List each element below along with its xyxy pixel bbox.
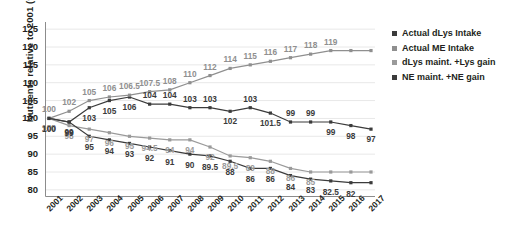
legend-item-1[interactable]: Actual ME Intake <box>392 43 512 54</box>
legend-label: NE maint. +NE gain <box>402 73 485 82</box>
legend-label: Actual dLys Intake <box>402 29 481 38</box>
legend-label: Actual ME Intake <box>402 44 474 53</box>
data-label: 114 <box>223 55 236 63</box>
legend-item-3[interactable]: NE maint. +NE gain <box>392 72 512 83</box>
data-label: 94 <box>185 146 194 154</box>
data-label: 99 <box>65 129 74 137</box>
data-label: 103 <box>203 95 217 103</box>
data-label: 93 <box>125 150 134 158</box>
data-label: 83 <box>306 186 315 194</box>
data-label: 94.5 <box>142 144 158 152</box>
data-labels: 10099103105106104104103103102103101.5999… <box>45 22 375 197</box>
data-label: 103 <box>82 114 96 122</box>
data-label: 95 <box>85 143 94 151</box>
line-chart: Nutrients relative to 2001 (%) 808590951… <box>0 0 515 242</box>
data-label: 97 <box>366 135 375 143</box>
data-label: 89.5 <box>202 163 218 171</box>
y-tick-label: 115 <box>12 60 38 70</box>
data-label: 94 <box>165 146 174 154</box>
data-label: 94 <box>105 147 114 155</box>
data-label: 112 <box>203 62 216 70</box>
data-label: 110 <box>183 70 196 78</box>
legend-label: dLys maint. +Lys gain <box>402 58 496 67</box>
data-label: 117 <box>284 45 297 53</box>
data-label: 86 <box>246 175 255 183</box>
y-tick-label: 120 <box>12 42 38 52</box>
data-label: 106 <box>102 84 116 92</box>
x-axis-ticks: 2001200220032004200520062007200820092010… <box>45 201 385 242</box>
data-label: 116 <box>264 48 277 56</box>
y-tick-label: 110 <box>12 78 38 88</box>
legend-swatch-icon <box>392 60 397 65</box>
data-label: 100 <box>42 125 56 133</box>
data-label: 99 <box>286 109 295 117</box>
y-tick-label: 90 <box>12 149 38 159</box>
data-label: 118 <box>304 41 317 49</box>
legend-item-0[interactable]: Actual dLys Intake <box>392 28 512 39</box>
y-axis-ticks: 80859095100105110115120125 <box>10 0 38 242</box>
data-label: 102 <box>223 117 237 125</box>
data-label: 108 <box>163 77 177 85</box>
y-tick-label: 105 <box>12 96 38 106</box>
data-label: 103 <box>243 95 257 103</box>
y-tick-label: 80 <box>12 185 38 195</box>
data-label: 90 <box>185 161 194 169</box>
data-label: 84 <box>286 182 295 190</box>
data-label: 86 <box>266 175 275 183</box>
data-label: 103 <box>183 95 197 103</box>
data-label: 99 <box>306 109 315 117</box>
y-tick-label: 125 <box>12 24 38 34</box>
data-label: 99 <box>326 128 335 136</box>
legend: Actual dLys IntakeActual ME IntakedLys m… <box>392 28 512 86</box>
data-label: 100 <box>42 105 56 113</box>
y-tick-label: 95 <box>12 132 38 142</box>
data-label: 104 <box>143 91 157 99</box>
data-label: 105 <box>102 106 116 114</box>
data-label: 105 <box>82 87 96 95</box>
data-label: 91 <box>165 157 174 165</box>
data-label: 106.5 <box>119 82 140 90</box>
data-label: 107.5 <box>139 78 160 86</box>
data-label: 101.5 <box>260 119 281 127</box>
y-tick-label: 85 <box>12 167 38 177</box>
data-label: 115 <box>244 52 257 60</box>
data-label: 88 <box>226 168 235 176</box>
legend-swatch-icon <box>392 31 397 36</box>
legend-swatch-icon <box>392 46 397 51</box>
data-label: 89 <box>246 164 255 172</box>
data-label: 92 <box>205 153 214 161</box>
legend-swatch-icon <box>392 75 397 80</box>
data-label: 98 <box>346 131 355 139</box>
data-label: 92 <box>145 154 154 162</box>
data-label: 106 <box>123 103 137 111</box>
legend-item-2[interactable]: dLys maint. +Lys gain <box>392 57 512 68</box>
data-label: 104 <box>163 91 177 99</box>
data-label: 102 <box>62 98 76 106</box>
y-tick-label: 100 <box>12 114 38 124</box>
data-label: 119 <box>324 37 337 45</box>
